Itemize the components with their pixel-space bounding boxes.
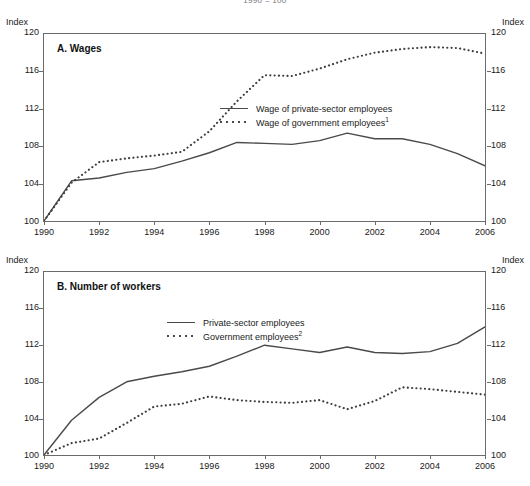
x-tick-mark: [44, 222, 45, 225]
y-tick-mark: [39, 308, 43, 309]
panel-title-a: A. Wages: [57, 43, 102, 54]
y-tick-label: 100: [13, 217, 39, 226]
x-tick-label: 1990: [34, 227, 54, 237]
y-tick-label: 100: [491, 217, 517, 226]
x-tick-label: 2004: [420, 227, 440, 237]
panel-number-of-workers: Index Index B. Number of workers Private…: [0, 252, 530, 486]
x-tick-label: 2006: [475, 461, 495, 471]
series-line-2: [44, 47, 485, 221]
y-tick-label: 112: [13, 104, 39, 113]
y-tick-label: 116: [491, 303, 517, 312]
y-tick-label: 112: [13, 340, 39, 349]
y-axis-unit-right-b: Index: [502, 255, 524, 265]
x-tick-mark: [430, 456, 431, 459]
legend-item-private-wage: Wage of private-sector employees: [219, 102, 392, 115]
series-canvas-number-of-workers: [44, 272, 485, 455]
legend-item-government-workers: Government employees2: [166, 329, 305, 342]
y-tick-label: 120: [491, 28, 517, 37]
legend-label-government-wage: Wage of government employees1: [256, 116, 389, 128]
y-tick-mark: [39, 109, 43, 110]
x-tick-label: 2000: [310, 461, 330, 471]
x-tick-label: 1996: [199, 227, 219, 237]
legend-key-solid-icon: [166, 317, 196, 328]
series-line-2: [44, 387, 485, 455]
legend-key-solid-icon: [219, 103, 249, 114]
y-tick-mark: [487, 71, 491, 72]
y-tick-label: 112: [491, 340, 517, 349]
x-tick-label: 1998: [254, 461, 274, 471]
y-tick-mark: [39, 419, 43, 420]
y-tick-mark: [39, 345, 43, 346]
y-tick-mark: [487, 109, 491, 110]
y-tick-label: 108: [491, 377, 517, 386]
figure-root: 1990 = 100 Index Index A. Wages Wage of …: [0, 0, 530, 486]
x-tick-label: 1992: [89, 461, 109, 471]
y-axis-unit-left-a: Index: [6, 17, 28, 27]
panel-title-b: B. Number of workers: [57, 281, 161, 292]
x-tick-mark: [485, 456, 486, 459]
legend-item-private-workers: Private-sector employees: [166, 316, 305, 329]
x-tick-label: 2006: [475, 227, 495, 237]
x-tick-mark: [265, 222, 266, 225]
y-tick-label: 120: [13, 266, 39, 275]
y-tick-label: 108: [491, 141, 517, 150]
x-tick-label: 1996: [199, 461, 219, 471]
x-tick-mark: [320, 456, 321, 459]
y-tick-label: 104: [13, 414, 39, 423]
y-tick-label: 116: [491, 66, 517, 75]
x-tick-label: 1992: [89, 227, 109, 237]
x-tick-label: 1998: [254, 227, 274, 237]
x-tick-mark: [209, 222, 210, 225]
y-tick-label: 120: [491, 266, 517, 275]
y-tick-mark: [487, 184, 491, 185]
y-tick-label: 120: [13, 28, 39, 37]
x-tick-label: 2002: [365, 461, 385, 471]
x-tick-mark: [99, 456, 100, 459]
x-tick-mark: [154, 456, 155, 459]
y-tick-mark: [487, 419, 491, 420]
legend-item-government-wage: Wage of government employees1: [219, 115, 392, 128]
x-tick-mark: [154, 222, 155, 225]
y-tick-label: 100: [491, 451, 517, 460]
y-tick-label: 108: [13, 141, 39, 150]
y-tick-label: 116: [13, 303, 39, 312]
y-tick-label: 100: [13, 451, 39, 460]
plot-area-number-of-workers: B. Number of workers Private-sector empl…: [43, 271, 486, 456]
y-tick-label: 104: [13, 179, 39, 188]
x-tick-label: 1994: [144, 227, 164, 237]
y-tick-mark: [487, 308, 491, 309]
x-tick-label: 2002: [365, 227, 385, 237]
legend-label-private-wage: Wage of private-sector employees: [256, 104, 392, 114]
legend-key-dotted-icon: [166, 330, 196, 341]
x-tick-mark: [320, 222, 321, 225]
legend-label-government-workers: Government employees2: [203, 330, 302, 342]
legend-number-of-workers: Private-sector employees Government empl…: [166, 316, 305, 342]
y-tick-mark: [487, 146, 491, 147]
x-tick-label: 1994: [144, 461, 164, 471]
x-tick-mark: [265, 456, 266, 459]
y-tick-mark: [39, 184, 43, 185]
y-tick-label: 104: [491, 414, 517, 423]
y-tick-mark: [487, 345, 491, 346]
y-tick-mark: [39, 382, 43, 383]
x-tick-mark: [209, 456, 210, 459]
y-tick-mark: [39, 71, 43, 72]
y-axis-unit-right-a: Index: [502, 17, 524, 27]
y-tick-label: 112: [491, 104, 517, 113]
x-tick-label: 1990: [34, 461, 54, 471]
y-tick-label: 108: [13, 377, 39, 386]
y-tick-mark: [487, 382, 491, 383]
plot-area-wages: A. Wages Wage of private-sector employee…: [43, 33, 486, 222]
x-tick-label: 2004: [420, 461, 440, 471]
x-tick-label: 2000: [310, 227, 330, 237]
legend-wages: Wage of private-sector employees Wage of…: [219, 102, 392, 128]
figure-subtitle: 1990 = 100: [0, 0, 530, 5]
x-tick-mark: [375, 456, 376, 459]
y-tick-label: 104: [491, 179, 517, 188]
x-tick-mark: [430, 222, 431, 225]
x-tick-mark: [99, 222, 100, 225]
y-tick-mark: [39, 146, 43, 147]
series-line-1: [44, 327, 485, 455]
x-tick-mark: [375, 222, 376, 225]
y-tick-label: 116: [13, 66, 39, 75]
